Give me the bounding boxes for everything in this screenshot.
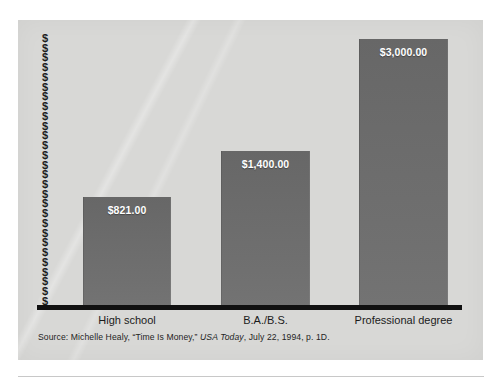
bar-high-school[interactable]: $821.00: [83, 197, 171, 305]
bar-ba-bs[interactable]: $1,400.00: [221, 151, 310, 305]
bar-label-ba-bs: B.A./B.S.: [191, 314, 340, 326]
chart-panel: $$$$$$$$$$$$$$$$$$$$$$$$$$$$ $821.00 Hig…: [18, 20, 483, 360]
y-axis: $$$$$$$$$$$$$$$$$$$$$$$$$$$$: [38, 34, 52, 306]
plot-area: $$$$$$$$$$$$$$$$$$$$$$$$$$$$ $821.00 Hig…: [18, 20, 483, 360]
figure: $$$$$$$$$$$$$$$$$$$$$$$$$$$$ $821.00 Hig…: [0, 0, 500, 383]
bar-label-high-school: High school: [53, 314, 201, 326]
bar-professional-degree[interactable]: $3,000.00: [359, 39, 448, 305]
source-note-publication: USA Today: [200, 332, 244, 342]
x-axis-line: [37, 305, 462, 310]
source-note: Source: Michelle Healy, “Time Is Money,”…: [38, 332, 330, 342]
source-note-suffix: , July 22, 1994, p. 1D.: [244, 332, 330, 342]
bar-value-professional-degree: $3,000.00: [359, 46, 448, 58]
bar-value-ba-bs: $1,400.00: [221, 158, 310, 170]
bottom-divider: [18, 376, 484, 377]
source-note-prefix: Source: Michelle Healy, “Time Is Money,”: [38, 332, 200, 342]
bar-label-professional-degree: Professional degree: [329, 314, 478, 326]
bar-value-high-school: $821.00: [83, 204, 171, 216]
